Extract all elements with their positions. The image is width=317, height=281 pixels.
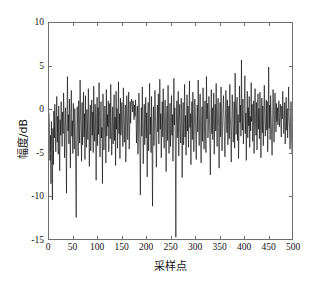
x-tick-top [171,22,172,26]
y-tick-right [289,109,293,110]
x-axis-label: 采样点 [48,257,293,273]
signal-polyline [49,60,292,237]
x-tick-bottom [122,236,123,240]
x-tick-label: 500 [286,242,300,252]
x-tick-label: 200 [139,242,153,252]
y-tick-right [289,66,293,67]
y-tick-right [289,153,293,154]
x-tick-bottom [269,236,270,240]
x-tick-label: 300 [188,242,202,252]
x-tick-bottom [244,236,245,240]
signal-series-svg [49,23,292,239]
x-tick-bottom [195,236,196,240]
y-axis-label: 幅度/dB [14,99,30,179]
chart-figure: 050100150200250300350400450500 -15-10-50… [0,0,317,281]
y-tick-left [48,66,52,67]
x-tick-top [195,22,196,26]
x-tick-label: 0 [46,242,51,252]
x-tick-bottom [73,236,74,240]
x-tick-label: 150 [114,242,128,252]
x-tick-bottom [97,236,98,240]
x-tick-label: 350 [212,242,226,252]
y-tick-right [289,196,293,197]
y-tick-left [48,153,52,154]
x-tick-bottom [220,236,221,240]
x-tick-bottom [146,236,147,240]
x-tick-label: 450 [261,242,275,252]
x-tick-label: 50 [68,242,78,252]
y-tick-left [48,109,52,110]
y-tick-label: 5 [39,61,44,71]
y-tick-label: -15 [31,235,44,245]
x-tick-top [269,22,270,26]
x-tick-label: 100 [90,242,104,252]
x-tick-top [73,22,74,26]
y-tick-label: -10 [31,191,44,201]
x-tick-top [122,22,123,26]
x-tick-bottom [171,236,172,240]
plot-area [48,22,293,240]
x-tick-top [244,22,245,26]
x-tick-label: 250 [163,242,177,252]
x-tick-top [220,22,221,26]
y-tick-label: 0 [39,104,44,114]
y-tick-left [48,196,52,197]
y-tick-label: 10 [35,17,45,27]
x-tick-top [146,22,147,26]
x-tick-top [97,22,98,26]
x-tick-label: 400 [237,242,251,252]
y-tick-label: -5 [36,148,44,158]
